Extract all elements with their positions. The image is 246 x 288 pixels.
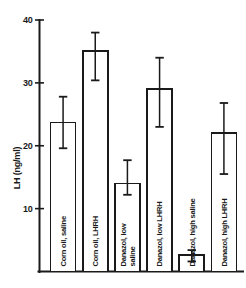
bar-group: Corn oil, saline [51, 97, 76, 272]
bar-category-label: Corn oil, saline [59, 216, 68, 266]
y-tick-label-20: 20 [23, 141, 33, 151]
y-axis-ticks: 10203040 [23, 15, 44, 214]
bar-category-label: Danazol, high LHRH [220, 198, 229, 266]
bar-group: Corn oil, LHRH [83, 33, 108, 272]
bar-category-label: Danazol, high saline [188, 198, 197, 266]
bar-group: Danazol, high saline [179, 198, 204, 271]
bar-category-label: Danazol, low [119, 223, 128, 266]
y-tick-label-40: 40 [23, 15, 33, 25]
y-tick-label-10: 10 [23, 204, 33, 214]
bar-category-label: Corn oil, LHRH [91, 216, 100, 267]
y-tick-label-30: 30 [23, 78, 33, 88]
bar-chart-figure: 10203040 LH (ng/ml) Corn oil, salineCorn… [0, 0, 246, 288]
bar-category-label: saline [128, 246, 137, 266]
y-axis-title-text: LH (ng/ml) [12, 147, 22, 190]
y-axis-title: LH (ng/ml) [12, 147, 22, 190]
bar-group: Danazol, low LHRH [147, 58, 172, 272]
bar-group: Danazol, lowsaline [115, 160, 140, 271]
bar-category-label: Danazol, low LHRH [155, 202, 164, 267]
chart-canvas: 10203040 LH (ng/ml) Corn oil, salineCorn… [0, 0, 246, 288]
bars-container: Corn oil, salineCorn oil, LHRHDanazol, l… [51, 33, 237, 272]
bar-group: Danazol, high LHRH [211, 103, 236, 272]
